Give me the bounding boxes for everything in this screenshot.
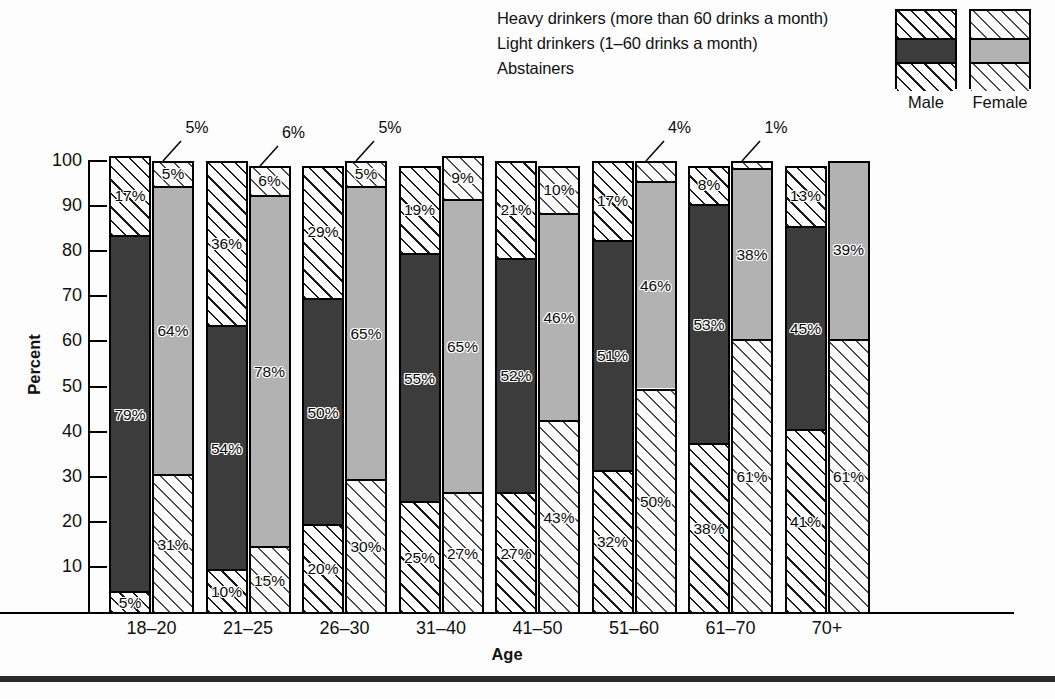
segment-female-abstainers-26-30[interactable]: 30%	[347, 479, 385, 612]
segment-male-light-70+[interactable]: 45%	[787, 226, 825, 429]
segment-label-female-abstainers: 50%	[637, 493, 675, 511]
segment-female-light-70+[interactable]: 39%	[830, 163, 868, 339]
bar-male-26-30[interactable]: 29%50%20%	[302, 166, 344, 614]
bar-male-21-25[interactable]: 36%54%10%	[206, 161, 248, 614]
bottom-divider	[0, 676, 1055, 682]
bar-male-51-60[interactable]: 17%51%32%	[592, 161, 634, 614]
segment-female-light-26-30[interactable]: 65%	[347, 186, 385, 479]
segment-label-male-heavy: 19%	[401, 201, 439, 219]
segment-label-male-heavy: 17%	[111, 187, 149, 205]
segment-label-female-light: 78%	[251, 363, 289, 381]
segment-label-male-abstainers: 27%	[497, 545, 535, 563]
segment-female-abstainers-61-70[interactable]: 61%	[733, 339, 771, 612]
chart-page: Heavy drinkers (more than 60 drinks a mo…	[0, 0, 1055, 699]
segment-male-light-31-40[interactable]: 55%	[401, 253, 439, 501]
bar-female-70+[interactable]: 39%61%	[828, 161, 870, 614]
segment-label-male-abstainers: 41%	[787, 513, 825, 531]
y-axis-tick-30	[90, 476, 107, 478]
segment-male-heavy-18-20[interactable]: 17%	[111, 158, 149, 235]
segment-male-abstainers-41-50[interactable]: 27%	[497, 492, 535, 612]
callout-label-female-heavy-26-30: 5%	[360, 119, 420, 137]
bar-female-41-50[interactable]: 10%46%43%	[538, 166, 580, 614]
segment-female-light-51-60[interactable]: 46%	[637, 181, 675, 388]
segment-male-abstainers-51-60[interactable]: 32%	[594, 470, 632, 612]
segment-label-female-abstainers: 15%	[251, 572, 289, 590]
segment-male-light-51-60[interactable]: 51%	[594, 240, 632, 470]
segment-label-male-light: 50%	[304, 404, 342, 422]
bar-male-41-50[interactable]: 21%52%27%	[495, 161, 537, 614]
segment-female-heavy-21-25[interactable]: 6%	[251, 168, 289, 195]
segment-male-abstainers-61-70[interactable]: 38%	[690, 443, 728, 612]
segment-male-light-26-30[interactable]: 50%	[304, 298, 342, 524]
segment-male-light-18-20[interactable]: 79%	[111, 235, 149, 591]
plot-area: 100908070605040302010 Percent Age 17%79%…	[0, 0, 1055, 699]
segment-female-abstainers-51-60[interactable]: 50%	[637, 389, 675, 613]
callout-leader-line-female-heavy-26-30	[354, 139, 384, 163]
bar-female-18-20[interactable]: 5%64%31%	[152, 161, 194, 614]
y-axis-tick-40	[90, 431, 107, 433]
y-axis-tick-90	[90, 205, 107, 207]
segment-male-light-41-50[interactable]: 52%	[497, 258, 535, 493]
callout-leader-line-female-heavy-51-60	[644, 139, 674, 163]
segment-male-heavy-70+[interactable]: 13%	[787, 168, 825, 227]
segment-female-light-18-20[interactable]: 64%	[154, 186, 192, 475]
segment-male-heavy-31-40[interactable]: 19%	[401, 168, 439, 254]
y-axis-tick-label-10: 10	[36, 556, 82, 577]
segment-female-heavy-41-50[interactable]: 10%	[540, 168, 578, 213]
segment-label-female-heavy: 9%	[444, 169, 482, 187]
segment-label-male-heavy: 21%	[497, 201, 535, 219]
y-axis-tick-50	[90, 386, 107, 388]
segment-male-light-61-70[interactable]: 53%	[690, 204, 728, 443]
segment-female-abstainers-31-40[interactable]: 27%	[444, 492, 482, 612]
y-axis-tick-label-70: 70	[36, 285, 82, 306]
bar-female-61-70[interactable]: 38%61%	[731, 161, 773, 614]
x-axis-group-label-70+: 70+	[761, 618, 894, 639]
segment-female-heavy-31-40[interactable]: 9%	[444, 158, 482, 199]
segment-female-abstainers-70+[interactable]: 61%	[830, 339, 868, 612]
bar-male-18-20[interactable]: 17%79%5%	[109, 156, 151, 614]
segment-female-heavy-26-30[interactable]: 5%	[347, 163, 385, 186]
callout-label-female-heavy-61-70: 1%	[746, 119, 806, 137]
segment-male-heavy-21-25[interactable]: 36%	[208, 163, 246, 325]
callout-label-female-heavy-51-60: 4%	[650, 119, 710, 137]
segment-female-light-41-50[interactable]: 46%	[540, 213, 578, 420]
segment-male-light-21-25[interactable]: 54%	[208, 325, 246, 569]
segment-male-heavy-26-30[interactable]: 29%	[304, 168, 342, 299]
bar-female-31-40[interactable]: 9%65%27%	[442, 156, 484, 614]
segment-female-light-61-70[interactable]: 38%	[733, 168, 771, 339]
segment-label-female-light: 38%	[733, 246, 771, 264]
segment-female-abstainers-18-20[interactable]: 31%	[154, 474, 192, 612]
y-axis-tick-label-90: 90	[36, 195, 82, 216]
segment-label-female-abstainers: 43%	[540, 509, 578, 527]
segment-label-female-abstainers: 61%	[830, 468, 868, 486]
y-axis-tick-100	[90, 160, 107, 162]
segment-label-male-light: 54%	[208, 440, 246, 458]
segment-label-female-abstainers: 61%	[733, 468, 771, 486]
y-axis-tick-70	[90, 295, 107, 297]
segment-label-male-heavy: 13%	[787, 187, 825, 205]
segment-female-heavy-51-60[interactable]	[637, 163, 675, 181]
bar-female-51-60[interactable]: 46%50%	[635, 161, 677, 614]
bar-male-70+[interactable]: 13%45%41%	[785, 166, 827, 614]
segment-label-male-abstainers: 10%	[208, 583, 246, 601]
segment-male-abstainers-18-20[interactable]: 5%	[111, 591, 149, 612]
segment-male-heavy-41-50[interactable]: 21%	[497, 163, 535, 258]
segment-label-female-light: 46%	[637, 277, 675, 295]
segment-female-abstainers-21-25[interactable]: 15%	[251, 546, 289, 612]
segment-female-light-21-25[interactable]: 78%	[251, 195, 289, 547]
bar-female-21-25[interactable]: 6%78%15%	[249, 166, 291, 614]
segment-label-male-heavy: 8%	[690, 176, 728, 194]
segment-male-abstainers-21-25[interactable]: 10%	[208, 569, 246, 612]
segment-male-heavy-61-70[interactable]: 8%	[690, 168, 728, 204]
segment-female-light-31-40[interactable]: 65%	[444, 199, 482, 492]
bar-female-26-30[interactable]: 5%65%30%	[345, 161, 387, 614]
segment-label-female-abstainers: 31%	[154, 536, 192, 554]
bar-male-61-70[interactable]: 8%53%38%	[688, 166, 730, 614]
segment-female-heavy-18-20[interactable]: 5%	[154, 163, 192, 186]
segment-male-heavy-51-60[interactable]: 17%	[594, 163, 632, 240]
bar-male-31-40[interactable]: 19%55%25%	[399, 166, 441, 614]
segment-male-abstainers-31-40[interactable]: 25%	[401, 501, 439, 612]
segment-male-abstainers-70+[interactable]: 41%	[787, 429, 825, 612]
segment-male-abstainers-26-30[interactable]: 20%	[304, 524, 342, 612]
segment-female-abstainers-41-50[interactable]: 43%	[540, 420, 578, 612]
